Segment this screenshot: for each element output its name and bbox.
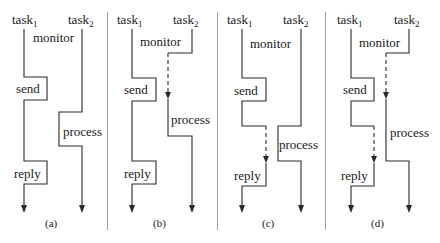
arrow-down-icon (263, 156, 269, 163)
task1-label: task1 (337, 12, 362, 29)
task2-label: task2 (394, 12, 419, 29)
panel-caption: (b) (153, 217, 166, 230)
process-label: process (171, 112, 210, 127)
panel-caption: (a) (45, 217, 58, 230)
task2-timeline (278, 29, 301, 206)
reply-label: reply (341, 168, 368, 183)
panel-b: task1 task2 monitor send process reply (… (117, 12, 210, 230)
arrow-down-icon (298, 205, 304, 213)
arrow-down-icon (165, 92, 171, 99)
panel-caption: (c) (262, 217, 275, 230)
monitor-label: monitor (33, 30, 75, 45)
arrow-down-icon (371, 156, 377, 163)
arrow-down-icon (406, 205, 412, 213)
task1-label: task1 (117, 12, 142, 29)
send-label: send (124, 82, 148, 97)
send-label: send (234, 83, 258, 98)
panel-d: task1 task2 monitor send process reply (… (337, 12, 429, 230)
task2-label: task2 (68, 12, 93, 29)
process-label: process (279, 137, 318, 152)
arrow-down-icon (79, 205, 85, 213)
arrow-down-icon (189, 205, 195, 213)
task2-label: task2 (173, 12, 198, 29)
arrow-down-icon (21, 205, 27, 213)
arrow-down-icon (383, 92, 389, 99)
panel-c: task1 task2 monitor send process reply (… (227, 12, 318, 230)
reply-label: reply (124, 166, 151, 181)
arrow-down-icon (239, 205, 245, 213)
task-timeline-figure: task1 task2 monitor send process reply (… (0, 0, 440, 243)
task2-timeline (59, 29, 82, 206)
panel-a: task1 task2 monitor send process reply (… (12, 12, 102, 230)
panel-caption: (d) (371, 217, 384, 230)
task1-label: task1 (12, 12, 37, 29)
arrow-down-icon (348, 205, 354, 213)
task2-timeline-process (386, 99, 409, 206)
monitor-label: monitor (140, 34, 182, 49)
process-label: process (390, 125, 429, 140)
monitor-label: monitor (250, 36, 292, 51)
monitor-label: monitor (359, 35, 401, 50)
send-label: send (16, 81, 40, 96)
arrow-down-icon (129, 205, 135, 213)
task2-label: task2 (283, 12, 308, 29)
reply-label: reply (234, 168, 261, 183)
task1-label: task1 (227, 12, 252, 29)
reply-label: reply (14, 166, 41, 181)
process-label: process (63, 124, 102, 139)
send-label: send (343, 82, 367, 97)
